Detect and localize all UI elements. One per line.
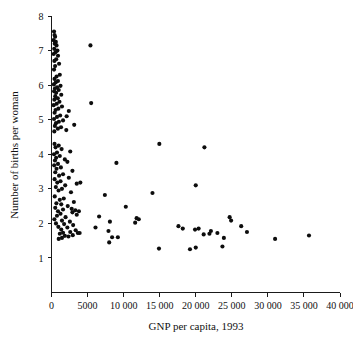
data-points [52,29,311,251]
y-tick-label: 3 [39,183,44,194]
data-point [63,183,67,187]
data-point [63,215,67,219]
data-point [62,222,66,226]
data-point [65,160,69,164]
data-point [215,231,219,235]
data-point [72,200,76,204]
axis-ticks [48,16,341,297]
data-point [239,224,243,228]
data-point [61,118,65,122]
data-point [53,206,57,210]
data-point [52,29,56,33]
x-axis-tick-labels: 0500010 00015 00020 00025 00030 00035 00… [49,300,353,311]
data-point [67,176,71,180]
data-point [58,232,62,236]
data-point [53,194,57,198]
x-tick-label: 5000 [78,300,98,311]
data-point [116,235,120,239]
data-point [78,181,82,185]
x-tick-label: 35 000 [290,300,318,311]
data-point [52,59,56,63]
data-point [52,52,56,56]
data-point [54,201,58,205]
data-point [52,129,56,133]
data-point [57,174,61,178]
data-point [114,161,118,165]
data-point [78,231,82,235]
data-point [65,114,69,118]
data-point [176,224,180,228]
data-point [52,82,56,86]
data-point [58,212,62,216]
data-point [97,214,101,218]
data-point [188,247,192,251]
data-point [52,217,56,221]
data-point [53,177,57,181]
data-point [54,43,58,47]
data-point [193,228,197,232]
data-point [60,147,64,151]
data-point [75,213,79,217]
data-point [56,127,60,131]
axis-spines [52,16,341,293]
data-point [88,43,92,47]
data-point [54,185,58,189]
data-point [54,221,58,225]
y-tick-label: 6 [39,80,44,91]
data-point [273,237,277,241]
data-point [58,154,62,158]
data-point [53,111,57,115]
axes [52,16,341,293]
data-point [66,234,70,238]
y-tick-label: 4 [39,149,44,160]
scatter-plot-figure: 0500010 00015 00020 00025 00030 00035 00… [0,0,353,344]
plot-canvas: 0500010 00015 00020 00025 00030 00035 00… [0,0,353,344]
data-point [75,182,79,186]
data-point [55,181,59,185]
data-point [52,163,56,167]
x-tick-label: 20 000 [182,300,210,311]
data-point [124,205,128,209]
data-point [52,117,56,121]
data-point [68,149,72,153]
data-point [55,214,59,218]
data-point [52,103,56,107]
x-tick-label: 30 000 [254,300,282,311]
data-point [70,169,74,173]
data-point [60,104,64,108]
data-point [108,220,112,224]
data-point [133,221,137,225]
data-point [106,229,110,233]
data-point [67,109,71,113]
data-point [60,219,64,223]
data-point [157,247,161,251]
data-point [57,237,61,241]
data-point [245,230,249,234]
data-point [65,225,69,229]
data-point [181,226,185,230]
data-point [58,198,62,202]
data-point [194,246,198,250]
x-tick-label: 25 000 [218,300,246,311]
data-point [220,244,224,248]
data-point [53,158,57,162]
data-point [202,232,206,236]
x-tick-label: 15 000 [146,300,174,311]
y-tick-label: 2 [39,218,44,229]
data-point [107,240,111,244]
data-point [197,226,201,230]
data-point [59,165,63,169]
data-point [72,123,76,127]
data-point [56,162,60,166]
y-tick-label: 7 [39,45,44,56]
y-axis-tick-labels: 12345678 [39,11,44,264]
data-point [70,207,74,211]
data-point [229,219,233,223]
data-point [93,225,97,229]
data-point [103,193,107,197]
data-point [137,217,141,221]
data-point [71,223,75,227]
data-point [71,233,75,237]
data-point [150,191,154,195]
y-tick-label: 5 [39,114,44,125]
